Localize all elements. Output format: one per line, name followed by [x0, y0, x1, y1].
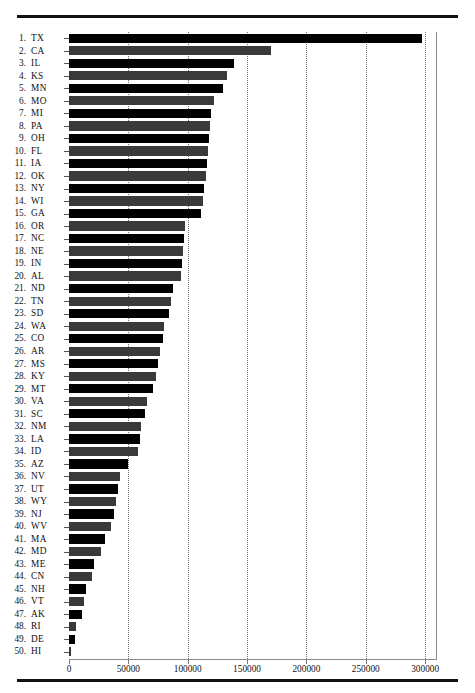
- bar-row: [69, 533, 437, 546]
- rank-number: 43.: [0, 558, 26, 571]
- y-tick-wy: [64, 502, 69, 503]
- y-tick-nj: [64, 514, 69, 515]
- y-tick-hi: [64, 652, 69, 653]
- rank-number: 17.: [0, 232, 26, 245]
- state-abbreviation: KY: [31, 370, 57, 383]
- rank-number: 35.: [0, 458, 26, 471]
- rank-number: 8.: [0, 120, 26, 133]
- category-label-ma: 41.MA: [0, 533, 62, 546]
- bar-row: [69, 182, 437, 195]
- x-tick-label: 150000: [233, 664, 261, 674]
- bar-hi: [69, 647, 71, 656]
- y-tick-or: [64, 226, 69, 227]
- state-abbreviation: MI: [31, 107, 57, 120]
- bar-row: [69, 445, 437, 458]
- y-tick-ms: [64, 364, 69, 365]
- rank-number: 27.: [0, 358, 26, 371]
- rank-number: 29.: [0, 383, 26, 396]
- y-tick-mn: [64, 88, 69, 89]
- bar-az: [69, 459, 128, 468]
- rank-number: 4.: [0, 70, 26, 83]
- bar-row: [69, 508, 437, 521]
- y-tick-id: [64, 451, 69, 452]
- category-label-or: 16.OR: [0, 220, 62, 233]
- bar-row: [69, 32, 437, 45]
- rank-number: 1.: [0, 32, 26, 45]
- bar-series: [69, 32, 437, 658]
- bar-wv: [69, 522, 111, 531]
- bar-tn: [69, 297, 171, 306]
- y-tick-cn: [64, 577, 69, 578]
- rank-number: 40.: [0, 520, 26, 533]
- state-abbreviation: VT: [31, 595, 57, 608]
- y-tick-sd: [64, 314, 69, 315]
- bar-mi: [69, 109, 211, 118]
- bar-row: [69, 583, 437, 596]
- rank-number: 2.: [0, 45, 26, 58]
- category-label-fl: 10.FL: [0, 145, 62, 158]
- bar-la: [69, 434, 140, 443]
- bar-row: [69, 420, 437, 433]
- category-label-nc: 17.NC: [0, 232, 62, 245]
- bar-row: [69, 170, 437, 183]
- rank-number: 16.: [0, 220, 26, 233]
- state-abbreviation: MD: [31, 545, 57, 558]
- bar-row: [69, 483, 437, 496]
- state-abbreviation: DE: [31, 633, 57, 646]
- bar-oh: [69, 134, 209, 143]
- bar-ky: [69, 372, 156, 381]
- y-tick-ar: [64, 351, 69, 352]
- state-abbreviation: OK: [31, 170, 57, 183]
- bar-row: [69, 57, 437, 70]
- y-tick-ne: [64, 251, 69, 252]
- rank-number: 20.: [0, 270, 26, 283]
- bar-in: [69, 259, 182, 268]
- state-abbreviation: KS: [31, 70, 57, 83]
- category-axis-labels: 1.TX2.CA3.IL4.KS5.MN6.MO7.MI8.PA9.OH10.F…: [0, 32, 64, 658]
- bar-ar: [69, 347, 160, 356]
- bar-sc: [69, 409, 145, 418]
- y-tick-ri: [64, 627, 69, 628]
- y-tick-mi: [64, 113, 69, 114]
- category-label-tn: 22.TN: [0, 295, 62, 308]
- bar-row: [69, 332, 437, 345]
- rank-number: 6.: [0, 95, 26, 108]
- y-tick-ma: [64, 539, 69, 540]
- bar-ok: [69, 171, 206, 180]
- state-abbreviation: NV: [31, 470, 57, 483]
- bar-row: [69, 545, 437, 558]
- state-abbreviation: IN: [31, 257, 57, 270]
- category-label-il: 3.IL: [0, 57, 62, 70]
- bar-sd: [69, 309, 169, 318]
- bar-mo: [69, 96, 214, 105]
- category-label-la: 33.LA: [0, 433, 62, 446]
- category-label-wy: 38.WY: [0, 495, 62, 508]
- y-tick-vt: [64, 602, 69, 603]
- y-tick-al: [64, 276, 69, 277]
- bar-row: [69, 220, 437, 233]
- category-label-mi: 7.MI: [0, 107, 62, 120]
- y-tick-mt: [64, 389, 69, 390]
- bar-cn: [69, 572, 92, 581]
- bar-al: [69, 271, 181, 280]
- rank-number: 25.: [0, 332, 26, 345]
- rank-number: 41.: [0, 533, 26, 546]
- y-tick-tn: [64, 301, 69, 302]
- bar-row: [69, 45, 437, 58]
- rank-number: 33.: [0, 433, 26, 446]
- y-tick-in: [64, 264, 69, 265]
- bar-wa: [69, 322, 164, 331]
- bar-ri: [69, 622, 76, 631]
- rank-number: 10.: [0, 145, 26, 158]
- state-abbreviation: ID: [31, 445, 57, 458]
- y-tick-wv: [64, 527, 69, 528]
- state-abbreviation: ME: [31, 558, 57, 571]
- rank-number: 49.: [0, 633, 26, 646]
- bar-va: [69, 397, 147, 406]
- y-tick-nm: [64, 426, 69, 427]
- rank-number: 46.: [0, 595, 26, 608]
- rank-number: 30.: [0, 395, 26, 408]
- bar-row: [69, 358, 437, 371]
- y-tick-ak: [64, 614, 69, 615]
- bar-pa: [69, 121, 210, 130]
